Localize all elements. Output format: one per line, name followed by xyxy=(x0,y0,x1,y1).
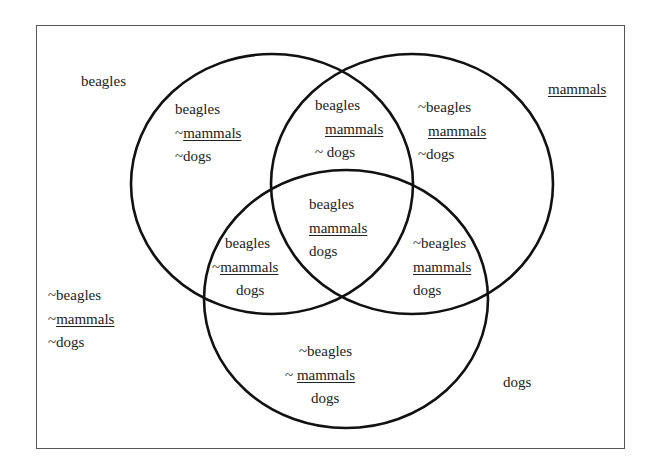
region-line: dogs xyxy=(212,279,278,303)
region-mammals-only: ~beagles mammals ~dogs xyxy=(418,96,486,167)
region-line: mammals xyxy=(418,120,486,144)
region-line: beagles xyxy=(315,94,383,118)
region-line: beagles xyxy=(309,193,367,217)
region-line: ~dogs xyxy=(175,145,241,169)
label-dogs: dogs xyxy=(503,371,531,395)
region-line: beagles xyxy=(212,232,278,256)
region-line: ~mammals xyxy=(48,308,114,332)
region-line: ~mammals xyxy=(175,122,241,146)
region-dogs-only: ~beagles ~ mammals dogs xyxy=(285,340,355,411)
region-line: beagles xyxy=(175,98,241,122)
region-line: mammals xyxy=(315,118,383,142)
region-beagles-mammals: beagles mammals ~ dogs xyxy=(315,94,383,165)
region-line: dogs xyxy=(309,240,367,264)
label-mammals: mammals xyxy=(548,78,606,102)
region-line: ~dogs xyxy=(48,331,114,355)
region-beagles-only: beagles ~mammals ~dogs xyxy=(175,98,241,169)
label-text: mammals xyxy=(548,78,606,102)
region-line: ~dogs xyxy=(418,143,486,167)
region-line: dogs xyxy=(413,279,471,303)
region-line: mammals xyxy=(309,217,367,241)
region-line: ~ mammals xyxy=(285,364,355,388)
region-line: ~beagles xyxy=(418,96,486,120)
region-mammals-dogs: ~beagles mammals dogs xyxy=(413,232,471,303)
region-line: ~beagles xyxy=(48,284,114,308)
region-line: mammals xyxy=(413,256,471,280)
region-line: ~beagles xyxy=(413,232,471,256)
region-line: ~ dogs xyxy=(315,141,383,165)
label-text: beagles xyxy=(81,70,126,94)
region-none: ~beagles ~mammals ~dogs xyxy=(48,284,114,355)
region-line: dogs xyxy=(285,387,355,411)
label-text: dogs xyxy=(503,371,531,395)
region-line: ~beagles xyxy=(285,340,355,364)
label-beagles: beagles xyxy=(81,70,126,94)
region-all-three: beagles mammals dogs xyxy=(309,193,367,264)
region-line: ~mammals xyxy=(212,256,278,280)
region-beagles-dogs: beagles ~mammals dogs xyxy=(212,232,278,303)
